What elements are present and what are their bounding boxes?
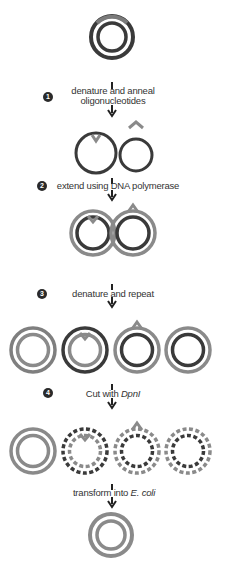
annealed-strands xyxy=(76,122,152,173)
dpni-digested-plasmids xyxy=(11,423,210,473)
step-4-label: Cut with DpnI xyxy=(86,389,140,399)
step-5-label: transform into E. coli xyxy=(73,488,155,498)
amplified-plasmids xyxy=(11,322,210,372)
step-badge-4: 4 xyxy=(43,388,53,398)
step-badge-1: 1 xyxy=(43,92,53,102)
step-2-label: extend using DNA polymerase xyxy=(57,181,179,191)
step-1-label: denature and anneal oligonucleotides xyxy=(71,86,154,106)
step-badge-3: 3 xyxy=(37,289,47,299)
step-badge-2: 2 xyxy=(37,181,47,191)
step-4-label-enzyme: DpnI xyxy=(121,388,140,399)
transformed-plasmid xyxy=(90,514,132,556)
extended-plasmids xyxy=(71,205,155,255)
step-5-label-organism: E. coli xyxy=(131,487,155,498)
step-5-label-prefix: transform into xyxy=(73,487,131,498)
step-1-label-line-2: oligonucleotides xyxy=(71,96,154,106)
step-4-label-prefix: Cut with xyxy=(86,388,121,399)
step-3-label: denature and repeat xyxy=(72,289,154,299)
template-plasmid xyxy=(91,16,133,58)
